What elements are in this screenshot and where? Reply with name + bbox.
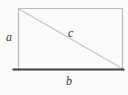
- geometry-diagram: a c b: [0, 0, 128, 95]
- rectangle-diagonal-figure: [0, 0, 128, 95]
- label-side-a: a: [6, 31, 12, 43]
- label-side-b: b: [66, 75, 72, 87]
- label-diagonal-c: c: [68, 27, 73, 39]
